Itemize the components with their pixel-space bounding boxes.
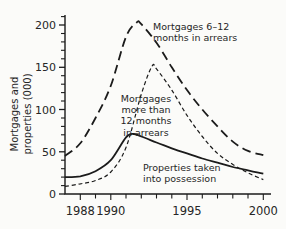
y-tick-label: 150	[35, 61, 56, 74]
y-axis-title: Mortgages and properties (000)	[9, 73, 34, 154]
y-tick-label: 200	[35, 19, 56, 32]
x-tick-label: 1990	[96, 204, 125, 218]
annotation-mortgages-over-12-months: Mortgages more than 12 months in arrears	[121, 93, 172, 138]
annotation-properties-possession: Properties taken into possession	[143, 162, 221, 184]
x-tick-label: 1995	[172, 204, 201, 218]
y-tick-label: 0	[49, 188, 56, 201]
y-tick-label: 100	[35, 104, 56, 117]
y-tick-label: 50	[42, 146, 56, 159]
x-tick-label: 1988	[66, 204, 95, 218]
annotation-mortgages-6-12-months: Mortgages 6–12 months in arrears	[153, 21, 237, 43]
arrears-possessions-chart: 0501001502001988199019952000 Mortgages a…	[0, 0, 286, 229]
x-tick-label: 2000	[249, 204, 278, 218]
